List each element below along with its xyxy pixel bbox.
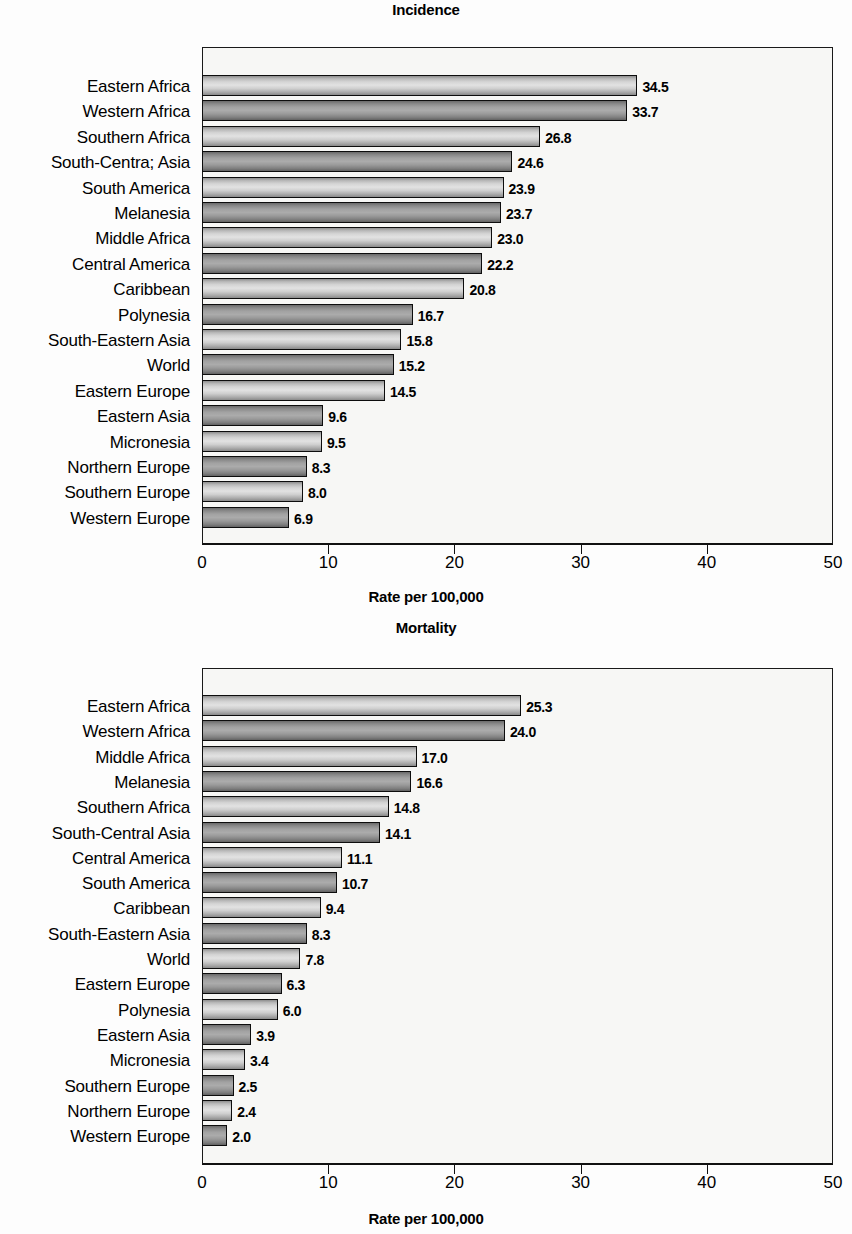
bar-value-label: 15.8 (406, 334, 432, 348)
category-label: South-Centra; Asia (51, 154, 190, 171)
figure-root: Incidence Eastern AfricaWestern AfricaSo… (0, 0, 852, 1234)
chart-title-mortality: Mortality (0, 618, 852, 638)
bar-value-label: 2.0 (232, 1130, 251, 1144)
x-axis-tick-label: 50 (813, 552, 852, 574)
bar-value-label: 3.4 (250, 1054, 269, 1068)
category-label: Central America (72, 850, 190, 867)
bar (202, 923, 307, 944)
bar (202, 746, 417, 767)
bar-value-label: 25.3 (526, 700, 552, 714)
bar (202, 1024, 251, 1045)
bar-value-label: 20.8 (469, 283, 495, 297)
bar (202, 507, 289, 528)
category-label: Southern Europe (64, 1078, 190, 1095)
x-axis-tick-labels-mortality: 01020304050 (0, 1172, 852, 1194)
x-axis-tick-label: 20 (434, 1172, 474, 1194)
bar (202, 329, 401, 350)
bar (202, 847, 342, 868)
category-label: Southern Africa (77, 799, 190, 816)
category-label: Central America (72, 256, 190, 273)
bar-value-label: 15.2 (399, 359, 425, 373)
category-label: South America (82, 180, 190, 197)
bar-value-label: 17.0 (422, 751, 448, 765)
bar-value-label: 8.0 (308, 486, 327, 500)
x-axis-tick-label: 10 (308, 552, 348, 574)
category-label: Eastern Africa (87, 78, 190, 95)
bar-value-label: 2.5 (239, 1080, 258, 1094)
bar-value-label: 24.0 (510, 725, 536, 739)
bar-value-label: 3.9 (256, 1029, 275, 1043)
bar-value-label: 24.6 (517, 156, 543, 170)
bar (202, 872, 337, 893)
category-label: Western Europe (70, 1128, 190, 1145)
bar (202, 695, 521, 716)
bar-value-label: 23.0 (497, 232, 523, 246)
bar-value-label: 26.8 (545, 131, 571, 145)
x-axis-tick-label: 40 (687, 1172, 727, 1194)
bar-value-label: 14.5 (390, 385, 416, 399)
bar-value-label: 16.7 (418, 309, 444, 323)
bar-value-label: 11.1 (347, 852, 372, 866)
x-axis-title-mortality: Rate per 100,000 (0, 1210, 852, 1227)
bar-value-label: 14.8 (394, 801, 420, 815)
category-label: Northern Europe (67, 459, 190, 476)
bar-value-label: 34.5 (642, 80, 668, 94)
category-label: Polynesia (118, 1002, 190, 1019)
bar-value-label: 10.7 (342, 877, 368, 891)
bar (202, 278, 464, 299)
x-axis-tick-label: 0 (182, 552, 222, 574)
bar (202, 1049, 245, 1070)
category-label: Northern Europe (67, 1103, 190, 1120)
bar (202, 973, 282, 994)
category-label: Eastern Africa (87, 698, 190, 715)
bar (202, 100, 627, 121)
bar-value-label: 8.3 (312, 461, 331, 475)
category-label: Southern Africa (77, 129, 190, 146)
bar (202, 897, 321, 918)
category-label: Micronesia (110, 434, 190, 451)
category-label: South-Eastern Asia (48, 332, 190, 349)
x-axis-tick-label: 0 (182, 1172, 222, 1194)
bar-value-label: 14.1 (385, 827, 411, 841)
chart-title-incidence: Incidence (0, 0, 852, 20)
bar (202, 177, 504, 198)
bar-value-label: 2.4 (237, 1105, 256, 1119)
bar-value-label: 9.4 (326, 902, 345, 916)
chart-panel-incidence: Incidence Eastern AfricaWestern AfricaSo… (0, 0, 852, 614)
bar (202, 1125, 227, 1146)
x-axis-tick-label: 10 (308, 1172, 348, 1194)
bar (202, 75, 637, 96)
category-label: Caribbean (113, 281, 190, 298)
category-label: Middle Africa (95, 749, 190, 766)
bar-value-label: 23.9 (509, 182, 535, 196)
bar (202, 771, 411, 792)
bar (202, 151, 512, 172)
category-label: Western Europe (70, 510, 190, 527)
category-label: Polynesia (118, 307, 190, 324)
category-label: Southern Europe (64, 484, 190, 501)
bar (202, 380, 385, 401)
x-axis-tick-label: 20 (434, 552, 474, 574)
category-label: South-Eastern Asia (48, 926, 190, 943)
bar (202, 253, 482, 274)
bar-value-label: 6.0 (283, 1004, 302, 1018)
bar (202, 822, 380, 843)
category-label: Eastern Europe (75, 383, 190, 400)
category-label: Western Africa (83, 723, 190, 740)
bar-value-label: 23.7 (506, 207, 532, 221)
category-label: Western Africa (83, 103, 190, 120)
category-label: Micronesia (110, 1052, 190, 1069)
category-label: Melanesia (114, 205, 190, 222)
x-axis-tick-label: 30 (561, 552, 601, 574)
chart-panel-mortality: Mortality Eastern AfricaWestern AfricaMi… (0, 618, 852, 1234)
bar (202, 405, 323, 426)
x-axis-title-incidence: Rate per 100,000 (0, 588, 852, 605)
bar (202, 481, 303, 502)
bar-value-label: 33.7 (632, 105, 658, 119)
category-label: Eastern Europe (75, 976, 190, 993)
bar (202, 354, 394, 375)
bar (202, 431, 322, 452)
category-label: World (147, 951, 190, 968)
bar (202, 304, 413, 325)
bar (202, 1075, 234, 1096)
